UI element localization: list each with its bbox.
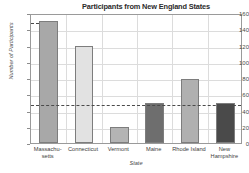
- y-tick-label: 120: [223, 44, 249, 50]
- bar: [145, 103, 163, 143]
- x-tick-label-line: Hampshire: [204, 153, 245, 160]
- y-tick-mark: [27, 95, 30, 96]
- gridline-horizontal: [31, 113, 241, 114]
- y-tick-mark: [27, 63, 30, 64]
- plot-area: [30, 14, 242, 144]
- gridline-horizontal: [31, 96, 241, 97]
- y-tick-label: 140: [223, 27, 249, 33]
- y-tick-mark: [27, 144, 30, 145]
- bar-chart-figure: Participants from New England States Num…: [0, 0, 249, 173]
- y-tick-mark: [27, 14, 30, 15]
- reference-line-max: [31, 23, 39, 24]
- y-tick-label: 80: [223, 76, 249, 82]
- y-tick-label: 100: [223, 60, 249, 66]
- y-axis-label: Number of Participants: [8, 16, 14, 86]
- bar: [39, 21, 57, 143]
- x-tick-label-line: New: [204, 146, 245, 153]
- y-tick-mark: [27, 79, 30, 80]
- x-axis-label: State: [30, 160, 242, 166]
- gridline-horizontal: [31, 64, 241, 65]
- x-tick-label-line: setts: [27, 153, 68, 160]
- y-tick-mark: [27, 30, 30, 31]
- bar: [181, 79, 199, 143]
- y-tick-mark: [27, 47, 30, 48]
- bar: [75, 46, 93, 143]
- y-tick-label: 20: [223, 125, 249, 131]
- gridline-horizontal: [31, 31, 241, 32]
- x-tick-label: NewHampshire: [204, 146, 245, 159]
- reference-line-median: [31, 105, 241, 106]
- y-tick-label: 60: [223, 92, 249, 98]
- y-tick-mark: [27, 128, 30, 129]
- gridline-vertical: [208, 15, 209, 143]
- chart-title: Participants from New England States: [44, 2, 248, 11]
- gridline-horizontal: [31, 80, 241, 81]
- y-tick-label: 40: [223, 109, 249, 115]
- bar: [110, 127, 128, 143]
- gridline-horizontal: [31, 129, 241, 130]
- gridline-horizontal: [31, 48, 241, 49]
- gridline-vertical: [137, 15, 138, 143]
- y-tick-mark: [27, 112, 30, 113]
- gridline-vertical: [102, 15, 103, 143]
- gridline-vertical: [172, 15, 173, 143]
- y-tick-label: 160: [223, 11, 249, 17]
- gridline-vertical: [66, 15, 67, 143]
